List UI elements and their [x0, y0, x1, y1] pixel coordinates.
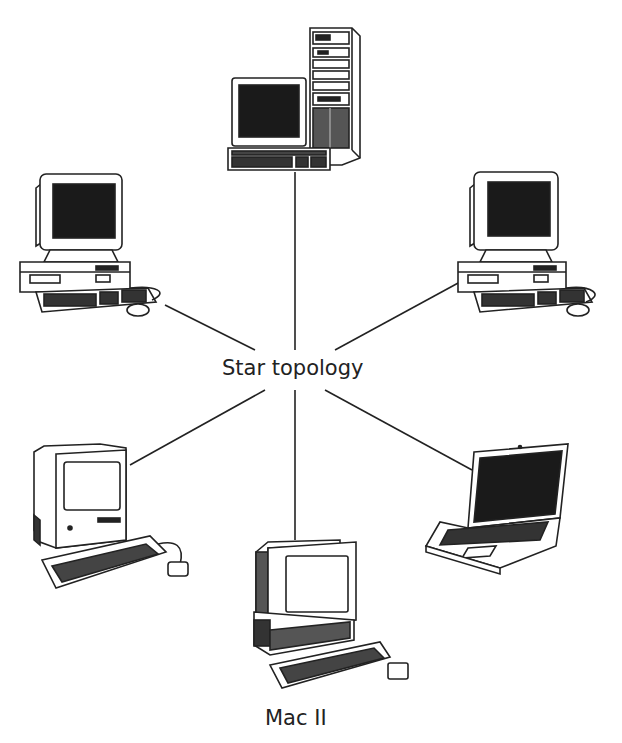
hub-label: Star topology: [222, 356, 363, 380]
desktop-pc-icon: [20, 174, 160, 316]
mac-ii-icon: [254, 540, 408, 688]
desktop-pc-icon: [458, 172, 595, 316]
link-lower-right: [325, 390, 472, 470]
tower-workstation-icon: [228, 28, 360, 170]
link-upper-right: [335, 282, 460, 350]
laptop-icon: [426, 444, 568, 574]
compact-macintosh-icon: [34, 444, 188, 588]
link-upper-left: [165, 305, 255, 350]
link-lower-left: [130, 390, 265, 465]
mac-ii-label: Mac II: [265, 706, 327, 730]
